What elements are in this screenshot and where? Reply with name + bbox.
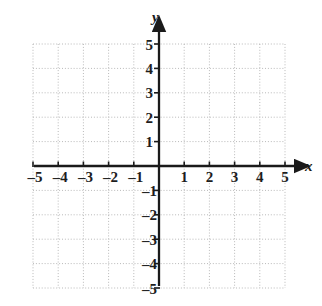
x-tick-label: 1 <box>180 169 188 185</box>
y-tick-label: –2 <box>141 207 157 223</box>
coordinate-plane-figure: –5–4–3–2–112345 54321–1–2–3–4–5 x y <box>0 0 322 306</box>
y-tick-label: 5 <box>146 37 154 53</box>
x-tick-label: –1 <box>127 169 143 185</box>
y-tick-label: –5 <box>141 281 157 297</box>
x-axis-tick-labels: –5–4–3–2–112345 <box>27 169 289 185</box>
y-tick-label: 2 <box>146 110 154 126</box>
x-tick-label: –3 <box>77 169 93 185</box>
x-tick-label: –4 <box>52 169 69 185</box>
y-tick-label: –3 <box>141 232 157 248</box>
y-tick-label: 1 <box>146 134 154 150</box>
y-tick-label: –1 <box>141 183 157 199</box>
x-tick-label: 2 <box>206 169 214 185</box>
x-tick-label: –5 <box>27 169 43 185</box>
x-tick-label: –2 <box>102 169 118 185</box>
y-tick-label: 4 <box>146 61 154 77</box>
x-tick-label: 5 <box>281 169 289 185</box>
y-tick-label: 3 <box>146 85 154 101</box>
coordinate-plane-canvas: –5–4–3–2–112345 54321–1–2–3–4–5 x y <box>0 0 322 306</box>
x-tick-label: 4 <box>256 169 264 185</box>
y-axis-label: y <box>150 9 159 25</box>
y-tick-label: –4 <box>141 256 158 272</box>
x-tick-label: 3 <box>231 169 239 185</box>
x-axis-label: x <box>304 158 313 174</box>
